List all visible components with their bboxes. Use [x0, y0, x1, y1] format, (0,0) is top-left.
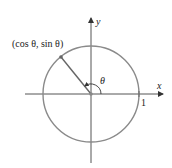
- unit-circle-diagram: (cos θ, sin θ) θ x y 1: [0, 0, 172, 168]
- y-axis-label: y: [95, 16, 101, 27]
- x-axis-label: x: [156, 80, 162, 91]
- origin-dot: [89, 92, 93, 96]
- radius-segment: [61, 57, 91, 94]
- angle-label: θ: [100, 75, 105, 86]
- point-label: (cos θ, sin θ): [12, 38, 63, 50]
- radius-tick-label: 1: [141, 97, 146, 108]
- point-dot: [59, 55, 63, 59]
